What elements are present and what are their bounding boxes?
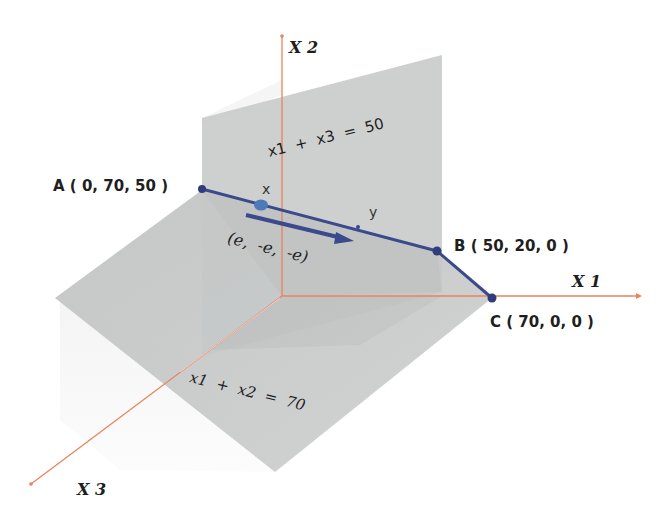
point-a-label: A ( 0, 70, 50 ) xyxy=(53,177,168,195)
point-c-label: C ( 70, 0, 0 ) xyxy=(490,313,594,331)
point-b-label: B ( 50, 20, 0 ) xyxy=(454,237,569,255)
axis-x2-label: X 2 xyxy=(289,38,318,57)
point-y xyxy=(356,225,360,229)
diagram-canvas xyxy=(0,0,668,524)
axis-x1-arrow xyxy=(636,293,642,299)
point-x xyxy=(254,200,268,211)
point-b xyxy=(433,247,442,256)
axis-x3-arrow xyxy=(29,482,33,486)
point-x-label: x xyxy=(262,181,270,197)
axis-x3-label: X 3 xyxy=(77,480,106,499)
point-a xyxy=(198,185,206,193)
point-c xyxy=(488,294,497,303)
axis-x1-label: X 1 xyxy=(572,272,601,291)
axis-x2-arrow xyxy=(280,34,284,38)
point-y-label: y xyxy=(369,204,377,220)
